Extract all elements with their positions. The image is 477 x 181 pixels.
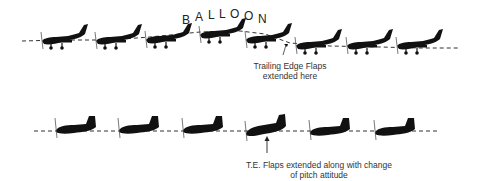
caption-line: T.E. Flaps extended along with change xyxy=(224,160,414,170)
balloon-letter: B xyxy=(182,13,190,27)
bottom-aircraft-4 xyxy=(245,114,286,141)
caption-line: of pitch attitude xyxy=(224,170,414,180)
top-aircraft-6 xyxy=(295,29,342,55)
flap-pointer-top xyxy=(283,44,288,55)
balloon-letter: N xyxy=(258,12,267,26)
bottom-aircraft-6 xyxy=(374,118,415,140)
bottom-aircraft-3 xyxy=(182,116,223,138)
pitch-attitude-caption: T.E. Flaps extended along with change of… xyxy=(224,160,414,180)
top-flight-path xyxy=(22,31,460,48)
caption-line: Trailing Edge Flaps xyxy=(228,61,352,71)
caption-line: extended here xyxy=(228,71,352,81)
top-aircraft-8 xyxy=(396,29,443,55)
trailing-edge-flaps-caption: Trailing Edge Flaps extended here xyxy=(228,61,352,81)
bottom-aircraft-1 xyxy=(55,116,96,138)
balloon-letter: A xyxy=(195,10,203,24)
top-aircraft-1 xyxy=(41,24,88,50)
top-aircraft-2 xyxy=(95,24,142,50)
bottom-aircraft-5 xyxy=(309,118,350,140)
flap-arrow-bottom xyxy=(265,136,270,153)
balloon-letter: O xyxy=(244,9,253,23)
top-aircraft-7 xyxy=(346,29,393,55)
bottom-aircraft-2 xyxy=(118,116,159,138)
balloon-letter: L xyxy=(219,7,226,21)
balloon-letter: O xyxy=(230,7,239,21)
flap-extension-diagram: B A L L O O N Trailing Edge Flaps extend… xyxy=(0,0,477,181)
balloon-letter: L xyxy=(208,8,215,22)
balloon-label: B A L L O O N xyxy=(182,6,272,28)
